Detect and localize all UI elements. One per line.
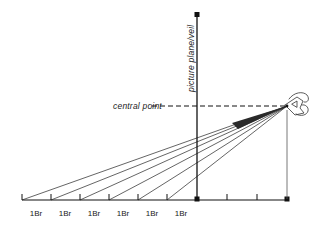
central-point-group: central point <box>113 101 285 111</box>
unit-label-group: 1Br 1Br 1Br 1Br 1Br 1Br <box>30 209 188 218</box>
cone-of-vision-wedge <box>232 106 287 129</box>
unit-label-5: 1Br <box>146 209 159 218</box>
ray-line <box>167 106 287 200</box>
unit-label-1: 1Br <box>30 209 43 218</box>
eye-icon <box>232 93 308 129</box>
unit-label-6: 1Br <box>175 209 188 218</box>
ground-line-group <box>22 194 290 202</box>
picture-plane-label: picture plane/veil <box>186 24 196 93</box>
ray-line <box>138 106 287 200</box>
central-point-label: central point <box>113 101 162 111</box>
diagram-canvas: 1Br 1Br 1Br 1Br 1Br 1Br picture plane/ve… <box>0 0 317 232</box>
ray-line <box>109 106 287 200</box>
picture-plane-top-node <box>195 12 200 17</box>
eye-pupil <box>292 101 297 107</box>
eye-convergence-node <box>286 105 289 108</box>
perspective-diagram: 1Br 1Br 1Br 1Br 1Br 1Br picture plane/ve… <box>0 0 317 232</box>
unit-label-4: 1Br <box>117 209 130 218</box>
unit-label-3: 1Br <box>88 209 101 218</box>
unit-label-2: 1Br <box>59 209 72 218</box>
